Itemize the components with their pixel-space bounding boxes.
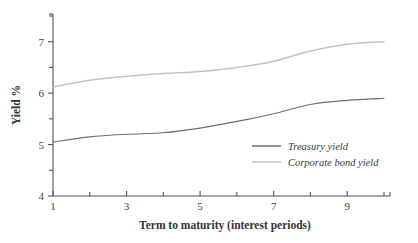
x-axis: 13579 (50, 191, 390, 212)
chart-legend: Treasury yieldCorporate bond yield (252, 141, 379, 168)
y-axis-tick-label: 7 (39, 36, 45, 48)
yield-curve-chart: 4567 13579 Treasury yieldCorporate bond … (0, 0, 418, 243)
y-axis: 4567 (39, 14, 54, 202)
x-axis-tick-label: 1 (50, 200, 56, 212)
x-axis-title: Term to maturity (interest periods) (139, 219, 311, 232)
chart-canvas: 4567 13579 Treasury yieldCorporate bond … (0, 0, 418, 243)
y-axis-tick-label: 5 (39, 139, 45, 151)
x-axis-tick-label: 7 (271, 200, 277, 212)
y-axis-tick-label: 4 (39, 190, 45, 202)
series-line-corporate-bond-yield (53, 42, 384, 87)
x-axis-tick-label: 3 (124, 200, 130, 212)
legend-label: Corporate bond yield (288, 157, 379, 168)
series-group (53, 42, 384, 142)
x-axis-tick-label: 5 (197, 200, 203, 212)
x-axis-tick-label: 9 (344, 200, 350, 212)
y-axis-title: Yield % (10, 85, 22, 125)
series-line-treasury-yield (53, 98, 384, 142)
legend-label: Treasury yield (288, 141, 349, 152)
y-axis-tick-label: 6 (39, 87, 45, 99)
